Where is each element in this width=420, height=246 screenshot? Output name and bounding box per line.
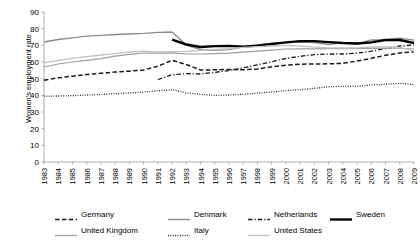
- x-tick-label: 2005: [353, 168, 362, 184]
- x-tick-label: 1983: [40, 168, 49, 184]
- x-tick-label: 1984: [54, 168, 63, 184]
- legend-item[interactable]: Denmark: [168, 207, 226, 221]
- y-tick-label: 50: [30, 75, 39, 84]
- x-tick-label: 1993: [182, 168, 191, 184]
- x-tick-label: 1999: [268, 168, 277, 184]
- x-tick-label: 1987: [97, 168, 106, 184]
- x-tick-label: 1989: [125, 168, 134, 184]
- x-tick-label: 1997: [239, 168, 248, 184]
- series-line-italy: [44, 83, 414, 96]
- legend-line-icon: [330, 210, 352, 219]
- legend-item[interactable]: Italy: [168, 223, 209, 237]
- legend-item[interactable]: United States: [248, 223, 322, 237]
- legend-label: United Kingdom: [81, 226, 138, 235]
- chart-page: Women's employment rate 0102030405060708…: [0, 0, 420, 246]
- legend-label: Denmark: [194, 210, 226, 219]
- x-tick-label: 2004: [339, 168, 348, 184]
- legend-label: Italy: [194, 226, 209, 235]
- legend-line-icon: [248, 226, 270, 235]
- series-line-united-kingdom: [44, 48, 414, 67]
- chart-legend: GermanyDenmarkNetherlandsSwedenUnited Ki…: [0, 203, 420, 246]
- y-tick-label: 70: [30, 41, 39, 50]
- legend-item[interactable]: Germany: [55, 207, 114, 221]
- y-tick-label: 60: [30, 58, 39, 67]
- legend-label: Netherlands: [274, 210, 317, 219]
- x-tick-label: 2006: [367, 168, 376, 184]
- y-tick-label: 10: [30, 141, 39, 150]
- x-tick-label: 1992: [168, 168, 177, 184]
- legend-item[interactable]: Netherlands: [248, 207, 317, 221]
- line-chart: 0102030405060708090198319841985198619871…: [0, 0, 420, 200]
- legend-item[interactable]: United Kingdom: [55, 223, 138, 237]
- x-tick-label: 1991: [154, 168, 163, 184]
- y-tick-label: 90: [30, 8, 39, 17]
- x-tick-label: 2003: [325, 168, 334, 184]
- x-tick-label: 1986: [83, 168, 92, 184]
- y-tick-label: 40: [30, 91, 39, 100]
- x-tick-label: 2000: [282, 168, 291, 184]
- x-tick-label: 2009: [410, 168, 419, 184]
- series-line-germany: [44, 52, 414, 81]
- x-tick-label: 1990: [140, 168, 149, 184]
- x-tick-label: 2002: [310, 168, 319, 184]
- x-tick-label: 2001: [296, 168, 305, 184]
- legend-label: United States: [274, 226, 322, 235]
- x-tick-label: 1988: [111, 168, 120, 184]
- y-tick-label: 0: [35, 158, 40, 167]
- x-tick-label: 1985: [68, 168, 77, 184]
- chart-plot-area: 0102030405060708090198319841985198619871…: [0, 0, 420, 200]
- y-tick-label: 30: [30, 108, 39, 117]
- legend-label: Sweden: [356, 210, 385, 219]
- legend-line-icon: [168, 210, 190, 219]
- x-tick-label: 1996: [225, 168, 234, 184]
- y-tick-label: 20: [30, 125, 39, 134]
- x-tick-label: 1994: [197, 168, 206, 184]
- y-tick-label: 80: [30, 25, 39, 34]
- legend-label: Germany: [81, 210, 114, 219]
- x-tick-label: 2008: [396, 168, 405, 184]
- legend-line-icon: [168, 226, 190, 235]
- x-tick-label: 1998: [253, 168, 262, 184]
- legend-line-icon: [248, 210, 270, 219]
- legend-item[interactable]: Sweden: [330, 207, 385, 221]
- x-tick-label: 2007: [382, 168, 391, 184]
- legend-line-icon: [55, 210, 77, 219]
- legend-line-icon: [55, 226, 77, 235]
- x-tick-label: 1995: [211, 168, 220, 184]
